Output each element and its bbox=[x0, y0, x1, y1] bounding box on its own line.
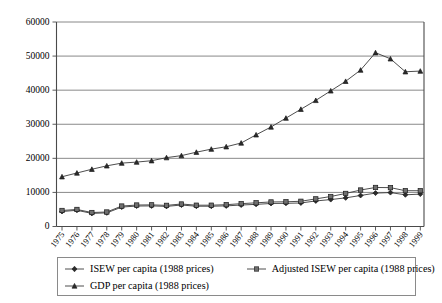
x-axis-ticks bbox=[62, 227, 420, 231]
x-axis-tick-label: 1977 bbox=[78, 229, 97, 249]
x-axis-tick-label: 1982 bbox=[153, 230, 171, 250]
data-point bbox=[164, 203, 168, 207]
data-point bbox=[105, 210, 109, 214]
x-axis-tick-label: 1981 bbox=[138, 230, 156, 250]
chart-legend: ISEW per capita (1988 prices) Adjusted I… bbox=[57, 257, 416, 296]
data-point bbox=[329, 194, 333, 198]
data-point bbox=[179, 202, 183, 206]
legend-marker-diamond-icon bbox=[64, 264, 85, 274]
data-point bbox=[373, 191, 378, 196]
data-point bbox=[194, 203, 198, 207]
data-point bbox=[60, 208, 64, 212]
data-series-layer bbox=[60, 50, 423, 216]
x-axis-tick-label: 1989 bbox=[257, 230, 275, 250]
legend-row-1: ISEW per capita (1988 prices) Adjusted I… bbox=[64, 260, 409, 277]
legend-marker-triangle-icon bbox=[64, 281, 85, 291]
data-point bbox=[388, 185, 392, 189]
data-point bbox=[75, 207, 79, 211]
y-axis-tick-labels: 0100002000030000400005000060000 bbox=[26, 17, 50, 232]
data-point bbox=[224, 202, 228, 206]
data-point bbox=[239, 141, 244, 146]
data-point bbox=[403, 189, 407, 193]
data-point bbox=[254, 132, 259, 137]
x-axis-tick-label: 1978 bbox=[93, 230, 111, 250]
data-point bbox=[314, 197, 318, 201]
legend-item-adjusted-isew: Adjusted ISEW per capita (1988 prices) bbox=[246, 263, 435, 274]
data-point bbox=[90, 210, 94, 214]
legend-label-isew: ISEW per capita (1988 prices) bbox=[90, 263, 214, 274]
data-point bbox=[120, 204, 124, 208]
x-axis-tick-label: 1999 bbox=[406, 230, 424, 250]
legend-row-2: GDP per capita (1988 prices) bbox=[64, 277, 409, 294]
x-axis-tick-label: 1985 bbox=[197, 230, 215, 250]
data-point bbox=[209, 203, 213, 207]
x-axis-tick-label: 1990 bbox=[272, 230, 290, 250]
x-axis-tick-label: 1993 bbox=[317, 230, 335, 250]
x-axis-tick-label: 1994 bbox=[332, 229, 351, 249]
x-axis-tick-label: 1975 bbox=[48, 230, 66, 250]
x-axis-tick-label: 1998 bbox=[391, 230, 409, 250]
y-axis-tick-label: 0 bbox=[45, 221, 50, 231]
x-axis-tick-label: 1986 bbox=[212, 229, 231, 249]
data-point bbox=[388, 56, 393, 61]
data-point bbox=[373, 185, 377, 189]
data-point bbox=[149, 203, 153, 207]
data-point bbox=[343, 195, 348, 200]
x-axis-tick-label: 1992 bbox=[302, 230, 320, 250]
data-point bbox=[269, 200, 273, 204]
data-point bbox=[284, 116, 289, 121]
data-point bbox=[328, 88, 333, 93]
x-axis-tick-label: 1997 bbox=[377, 229, 396, 249]
y-axis-tick-label: 10000 bbox=[26, 187, 50, 197]
legend-marker-square-icon bbox=[246, 264, 267, 274]
x-axis-tick-label: 1988 bbox=[242, 230, 260, 250]
data-point bbox=[358, 188, 362, 192]
data-point bbox=[343, 191, 347, 195]
x-axis-tick-label: 1979 bbox=[108, 230, 126, 250]
data-point bbox=[373, 50, 378, 55]
x-axis-tick-label: 1983 bbox=[168, 230, 186, 250]
data-point bbox=[269, 125, 274, 130]
data-point bbox=[388, 190, 393, 195]
data-point bbox=[284, 200, 288, 204]
series-2 bbox=[60, 50, 423, 179]
data-point bbox=[298, 107, 303, 112]
x-axis-tick-label: 1991 bbox=[287, 230, 305, 250]
x-axis-tick-label: 1984 bbox=[182, 229, 201, 249]
y-axis-tick-label: 50000 bbox=[26, 51, 50, 61]
series-line bbox=[62, 187, 420, 212]
data-point bbox=[418, 189, 422, 193]
x-axis-tick-label: 1995 bbox=[347, 230, 365, 250]
chart-figure: 0100002000030000400005000060000 19751976… bbox=[0, 0, 442, 303]
y-axis-tick-label: 60000 bbox=[26, 17, 50, 27]
data-point bbox=[239, 201, 243, 205]
legend-item-gdp: GDP per capita (1988 prices) bbox=[64, 280, 209, 291]
x-axis-tick-label: 1980 bbox=[123, 230, 141, 250]
data-point bbox=[313, 98, 318, 103]
data-point bbox=[299, 199, 303, 203]
x-axis-tick-label: 1976 bbox=[63, 229, 82, 249]
legend-label-adjusted-isew: Adjusted ISEW per capita (1988 prices) bbox=[272, 263, 435, 274]
x-axis-tick-labels: 1975197619771978197919801981198219831984… bbox=[48, 229, 425, 249]
y-axis-tick-label: 30000 bbox=[26, 119, 50, 129]
legend-item-isew: ISEW per capita (1988 prices) bbox=[64, 263, 214, 274]
x-axis-tick-label: 1996 bbox=[362, 229, 381, 249]
data-point bbox=[134, 203, 138, 207]
data-point bbox=[254, 201, 258, 205]
data-point bbox=[358, 193, 363, 198]
y-axis-tick-label: 40000 bbox=[26, 85, 50, 95]
y-axis-tick-label: 20000 bbox=[26, 153, 50, 163]
gridlines-group bbox=[53, 22, 425, 227]
x-axis-tick-label: 1987 bbox=[227, 229, 246, 249]
legend-label-gdp: GDP per capita (1988 prices) bbox=[90, 280, 209, 291]
